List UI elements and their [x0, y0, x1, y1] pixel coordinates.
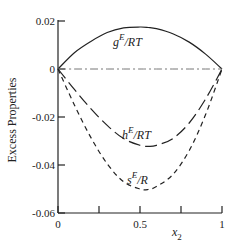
series-label: hE/RT	[122, 125, 152, 142]
y-ticks: 0.020-0.02-0.04-0.06	[32, 15, 65, 219]
y-tick-label: -0.06	[32, 207, 55, 219]
series-label: gE/RT	[113, 32, 143, 49]
excess-properties-chart: 0.020-0.02-0.04-0.06 00.51 gE/RThE/RTsE/…	[0, 0, 236, 246]
x-ticks: 00.51	[55, 206, 225, 230]
series-labels: gE/RThE/RTsE/R	[113, 32, 152, 187]
y-tick-label: 0	[50, 63, 56, 75]
y-tick-label: -0.02	[32, 111, 55, 123]
x-tick-label: 0	[55, 218, 61, 230]
x-tick-label: 0.5	[133, 218, 147, 230]
y-tick-label: 0.02	[36, 15, 55, 27]
data-series	[58, 27, 222, 190]
y-axis-label: Excess Properties	[5, 77, 19, 162]
x-axis-label: x2	[171, 225, 182, 242]
series-label: sE/R	[127, 170, 149, 187]
y-tick-label: -0.04	[32, 159, 55, 171]
x-tick-label: 1	[219, 218, 225, 230]
